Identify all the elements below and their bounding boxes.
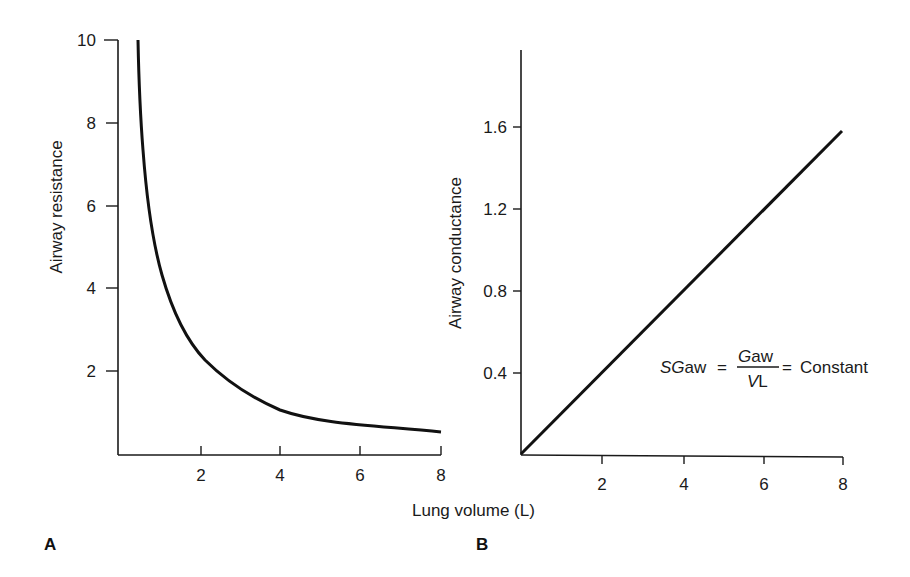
panel-label-a: A <box>44 535 56 554</box>
chart-b-xtick-8: 8 <box>838 475 847 494</box>
figure: 10 8 6 4 2 2 4 6 8 Airway resistance A L… <box>0 0 910 577</box>
chart-b-y-axis-label: Airway conductance <box>446 177 465 329</box>
chart-a-ytick-6: 6 <box>87 197 96 216</box>
x-axis-label: Lung volume (L) <box>412 501 535 520</box>
panel-label-b: B <box>476 535 488 554</box>
chart-b-x-axis <box>521 455 843 457</box>
chart-b-ytick-0.4: 0.4 <box>483 364 507 383</box>
chart-b-conductance-line <box>521 131 842 454</box>
eq-rhs: Constant <box>800 358 868 377</box>
chart-a-y-axis-label: Airway resistance <box>47 140 66 273</box>
eq-num-italic: G <box>738 347 751 366</box>
svg-text:Gaw: Gaw <box>738 347 774 366</box>
chart-b-xtick-4: 4 <box>679 475 688 494</box>
chart-b-ytick-0.8: 0.8 <box>483 282 507 301</box>
eq-lhs-italic: SG <box>660 358 685 377</box>
chart-a-x-ticks <box>201 446 441 455</box>
chart-a-xtick-2: 2 <box>196 466 205 485</box>
chart-a-resistance-curve <box>138 40 441 432</box>
chart-a: 10 8 6 4 2 2 4 6 8 Airway resistance A <box>44 31 446 554</box>
svg-text:VL: VL <box>747 372 768 391</box>
chart-a-xtick-4: 4 <box>275 466 284 485</box>
chart-b-xtick-6: 6 <box>759 475 768 494</box>
eq-num-rest: aw <box>751 347 773 366</box>
chart-a-ytick-10: 10 <box>77 31 96 50</box>
chart-a-ytick-2: 2 <box>87 362 96 381</box>
chart-a-xtick-8: 8 <box>436 466 445 485</box>
chart-a-ytick-4: 4 <box>87 279 96 298</box>
chart-b-y-ticks <box>513 127 521 373</box>
eq-equals-1: = <box>717 358 727 377</box>
chart-b-ytick-1.6: 1.6 <box>483 118 507 137</box>
eq-den-rest: L <box>758 372 767 391</box>
chart-b: 1.6 1.2 0.8 0.4 2 4 6 8 Airway conductan… <box>446 50 868 554</box>
chart-a-xtick-6: 6 <box>355 466 364 485</box>
chart-b-ytick-1.2: 1.2 <box>483 200 507 219</box>
eq-equals-2: = <box>782 358 792 377</box>
chart-b-xtick-2: 2 <box>597 475 606 494</box>
equation-annotation: SGaw = Gaw VL = Constant <box>660 347 868 391</box>
chart-a-ytick-8: 8 <box>87 114 96 133</box>
chart-a-y-ticks <box>104 40 118 371</box>
eq-lhs-rest: aw <box>685 358 707 377</box>
svg-text:SGaw: SGaw <box>660 358 707 377</box>
